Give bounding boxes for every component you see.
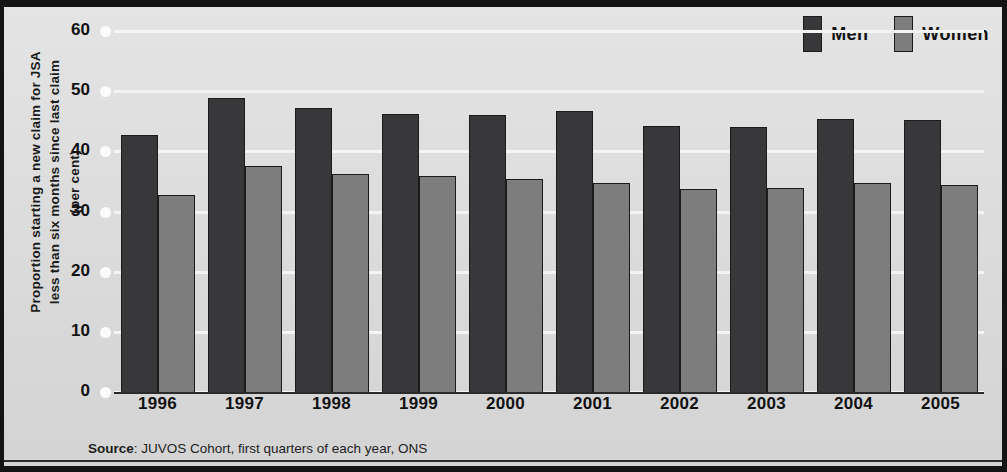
gridline-nub-60 <box>100 26 111 37</box>
chart-figure: Men Women Proportion starting a new clai… <box>0 0 1007 472</box>
x-tick-label-2000: 2000 <box>462 394 549 420</box>
y-tick-label-10: 10 <box>71 320 90 340</box>
bar-group-1998 <box>288 33 375 394</box>
plot-area: 0102030405060 <box>114 33 984 394</box>
source-note: Source: JUVOS Cohort, first quarters of … <box>88 441 427 456</box>
bar-group-2001 <box>549 33 636 394</box>
x-tick-label-2005: 2005 <box>897 394 984 420</box>
x-tick-label-1999: 1999 <box>375 394 462 420</box>
x-tick-label-1997: 1997 <box>201 394 288 420</box>
bar-group-2004 <box>810 33 897 394</box>
source-divider <box>4 460 1002 462</box>
bar-group-1996 <box>114 33 201 394</box>
y-tick-label-30: 30 <box>71 200 90 220</box>
bar-women-2005 <box>941 185 978 394</box>
y-tick-label-60: 60 <box>71 20 90 40</box>
bar-women-2001 <box>593 183 630 394</box>
bar-women-2002 <box>680 189 717 394</box>
y-axis-title-line-1: Proportion starting a new claim for JSA <box>26 51 46 312</box>
bar-group-1997 <box>201 33 288 394</box>
y-tick-label-40: 40 <box>71 140 90 160</box>
bar-men-2000 <box>469 115 506 394</box>
bar-group-2005 <box>897 33 984 394</box>
bar-women-2000 <box>506 179 543 394</box>
y-tick-label-20: 20 <box>71 260 90 280</box>
y-axis-title-line-2: less than six months since last claim <box>45 60 65 305</box>
bar-women-1997 <box>245 166 282 394</box>
bar-men-2002 <box>643 126 680 394</box>
bar-men-2001 <box>556 111 593 394</box>
bar-group-2000 <box>462 33 549 394</box>
x-tick-label-2002: 2002 <box>636 394 723 420</box>
bar-groups <box>114 33 984 394</box>
y-tick-label-50: 50 <box>71 80 90 100</box>
bar-women-2003 <box>767 188 804 394</box>
bar-men-2003 <box>730 127 767 394</box>
x-tick-label-2004: 2004 <box>810 394 897 420</box>
bar-men-1999 <box>382 114 419 394</box>
bar-group-2002 <box>636 33 723 394</box>
gridline-nub-0 <box>100 387 111 398</box>
gridline-nub-30 <box>100 207 111 218</box>
bar-women-1998 <box>332 174 369 394</box>
bar-men-1996 <box>121 135 158 394</box>
x-tick-label-1998: 1998 <box>288 394 375 420</box>
bar-men-2004 <box>817 119 854 394</box>
bar-women-1999 <box>419 176 456 394</box>
gridline-nub-20 <box>100 267 111 278</box>
x-tick-label-2001: 2001 <box>549 394 636 420</box>
source-text: : JUVOS Cohort, first quarters of each y… <box>134 441 427 456</box>
x-tick-label-1996: 1996 <box>114 394 201 420</box>
bar-men-2005 <box>904 120 941 394</box>
bar-men-1997 <box>208 98 245 394</box>
bar-women-1996 <box>158 195 195 394</box>
source-label: Source <box>88 441 134 456</box>
bar-men-1998 <box>295 108 332 394</box>
x-tick-label-2003: 2003 <box>723 394 810 420</box>
bar-women-2004 <box>854 183 891 394</box>
x-axis-tick-labels: 1996199719981999200020012002200320042005 <box>114 394 984 420</box>
bar-group-2003 <box>723 33 810 394</box>
bar-group-1999 <box>375 33 462 394</box>
gridline-nub-10 <box>100 327 111 338</box>
y-tick-label-0: 0 <box>81 381 90 401</box>
